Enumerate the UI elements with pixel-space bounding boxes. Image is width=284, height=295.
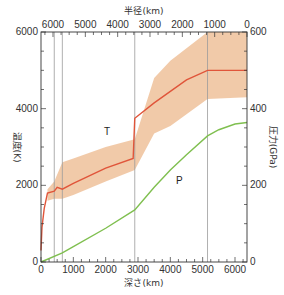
x-axis-title: 深さ(km) — [124, 278, 163, 288]
y2-tick-label: 400 — [250, 103, 267, 114]
x2-tick-label: 6000 — [42, 19, 65, 30]
x-tick-label: 3000 — [127, 264, 150, 275]
y2-axis-title: 圧力(GPa) — [268, 126, 279, 169]
y2-tick-label: 200 — [250, 179, 267, 190]
x2-tick-label: 1000 — [204, 19, 227, 30]
x-tick-label: 5000 — [192, 264, 215, 275]
y2-tick-label: 600 — [250, 26, 267, 37]
x2-axis-title: 半径(km) — [124, 5, 163, 16]
x2-tick-label: 3000 — [139, 19, 162, 30]
x-tick-label: 0 — [38, 264, 44, 275]
x2-tick-label: 5000 — [74, 19, 97, 30]
y2-tick-label: 0 — [250, 256, 256, 267]
y-tick-label: 6000 — [16, 26, 39, 37]
x-tick-label: 4000 — [159, 264, 182, 275]
x2-tick-label: 4000 — [107, 19, 130, 30]
x-tick-label: 6000 — [224, 264, 247, 275]
x2-tick-label: 2000 — [171, 19, 194, 30]
y-axis-title: 温度(K) — [12, 132, 23, 163]
x-tick-label: 1000 — [62, 264, 85, 275]
uncertainty-band — [47, 32, 247, 201]
y-tick-label: 2000 — [16, 179, 39, 190]
x-tick-label: 2000 — [95, 264, 118, 275]
t-series-label: T — [104, 126, 110, 137]
y-tick-label: 0 — [32, 256, 38, 267]
earth-interior-chart: 0100020003000400050006000600050004000300… — [0, 0, 284, 295]
temperature-uncertainty-band — [47, 32, 247, 201]
p-series-label: P — [176, 175, 183, 186]
y-tick-label: 4000 — [16, 103, 39, 114]
